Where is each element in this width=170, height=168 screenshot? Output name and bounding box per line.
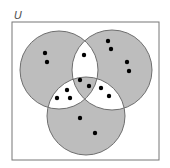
- element-dot: [107, 94, 111, 98]
- element-dot: [87, 84, 91, 88]
- element-dot: [68, 96, 72, 100]
- element-dot: [127, 69, 131, 73]
- element-dot: [43, 51, 47, 55]
- element-dot: [78, 78, 82, 82]
- element-dot: [45, 60, 49, 64]
- element-dot: [99, 86, 103, 90]
- element-dot: [65, 88, 69, 92]
- venn-diagram: U: [0, 0, 170, 168]
- element-dot: [125, 60, 129, 64]
- element-dot: [82, 53, 86, 57]
- element-dot: [109, 47, 113, 51]
- element-dot: [55, 96, 59, 100]
- element-dot: [93, 131, 97, 135]
- universe-label: U: [14, 9, 22, 22]
- element-dot: [78, 116, 82, 120]
- element-dot: [106, 39, 110, 43]
